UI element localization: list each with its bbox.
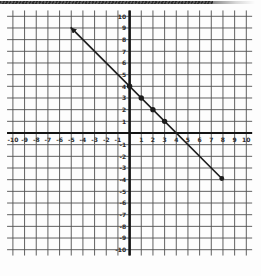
- y-tick-label: -10: [115, 246, 126, 253]
- y-tick-label: 5: [122, 71, 126, 78]
- x-tick-label: 10: [242, 136, 250, 143]
- x-tick-label: 6: [198, 136, 202, 143]
- x-tick-label: -3: [91, 136, 98, 143]
- x-tick-label: -8: [33, 136, 40, 143]
- x-tick-label: -2: [103, 136, 110, 143]
- y-tick-label: -6: [119, 199, 126, 206]
- y-tick-label: 9: [122, 24, 126, 31]
- y-tick-label: 7: [122, 48, 126, 55]
- plotted-point: [150, 107, 155, 112]
- line-end-dot: [219, 176, 224, 181]
- x-tick-label: 5: [186, 136, 190, 143]
- y-tick-label: -2: [119, 153, 126, 160]
- x-tick-label: -10: [7, 136, 18, 143]
- y-tick-label: -7: [119, 211, 126, 218]
- worksheet-page: -10-9-8-7-6-5-4-3-2-11234567891010987654…: [0, 0, 261, 276]
- plotted-point: [127, 84, 132, 89]
- x-tick-label: -9: [21, 136, 28, 143]
- x-tick-label: -7: [45, 136, 52, 143]
- x-tick-label: 8: [221, 136, 225, 143]
- y-tick-label: -4: [119, 176, 126, 183]
- y-tick-label: 10: [118, 13, 126, 20]
- x-tick-label: 3: [163, 136, 167, 143]
- plotted-point: [139, 95, 144, 100]
- y-tick-label: 3: [122, 94, 126, 101]
- y-tick-label: 4: [122, 83, 126, 90]
- y-tick-label: -9: [119, 234, 126, 241]
- x-tick-label: 4: [174, 136, 178, 143]
- coordinate-plane-graph: -10-9-8-7-6-5-4-3-2-11234567891010987654…: [0, 0, 261, 276]
- x-tick-label: 9: [233, 136, 237, 143]
- x-tick-label: 1: [139, 136, 143, 143]
- x-tick-label: -4: [80, 136, 87, 143]
- y-tick-label: -1: [119, 141, 126, 148]
- y-tick-label: 8: [122, 36, 126, 43]
- plotted-line: [71, 27, 222, 178]
- x-tick-label: -6: [56, 136, 63, 143]
- y-tick-label: 1: [122, 118, 126, 125]
- y-tick-label: -3: [119, 164, 126, 171]
- x-tick-label: 2: [151, 136, 155, 143]
- x-tick-label: 7: [209, 136, 213, 143]
- y-tick-label: -8: [119, 223, 126, 230]
- plotted-point: [162, 119, 167, 124]
- y-tick-label: -5: [119, 188, 126, 195]
- y-tick-label: 2: [122, 106, 126, 113]
- x-tick-label: -5: [68, 136, 75, 143]
- y-tick-label: 6: [122, 59, 126, 66]
